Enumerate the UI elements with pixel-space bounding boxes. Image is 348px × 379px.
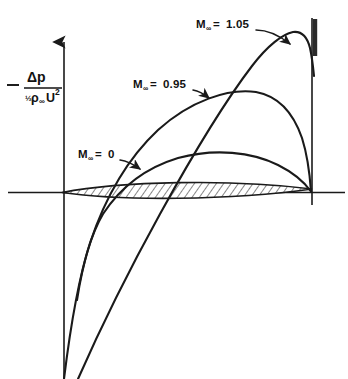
annotation-mach-0-equals: = bbox=[95, 148, 102, 160]
y-axis-label-u-exponent: 2 bbox=[55, 87, 60, 97]
annotation-mach-095: M ∞ = 0.95 bbox=[133, 78, 209, 98]
curve-mach-105-path bbox=[78, 32, 314, 379]
curve-mach-0 bbox=[77, 152, 311, 300]
annotation-mach-105-value: 1.05 bbox=[226, 18, 250, 30]
annotation-mach-095-equals: = bbox=[150, 78, 157, 90]
annotation-mach-105-symbol: M bbox=[196, 18, 206, 30]
airfoil-outline bbox=[62, 183, 312, 199]
annotation-mach-0-symbol: M bbox=[78, 148, 88, 160]
annotation-mach-095-leader bbox=[193, 90, 209, 98]
y-axis-label: Δp ½ ρ ∞ U 2 bbox=[7, 69, 62, 106]
annotation-mach-095-subscript: ∞ bbox=[143, 84, 148, 93]
annotation-mach-105-equals: = bbox=[213, 18, 220, 30]
y-axis-label-numerator: Δp bbox=[27, 69, 46, 85]
y-axis-label-rho-subscript: ∞ bbox=[39, 97, 45, 106]
y-axis-label-rho: ρ bbox=[31, 91, 39, 105]
pressure-distribution-figure: M ∞ = 1.05 M ∞ = 0.95 M ∞ = 0 Δp ½ ρ ∞ U… bbox=[0, 0, 348, 379]
curve-mach-0-path bbox=[77, 152, 311, 300]
annotation-mach-0: M ∞ = 0 bbox=[78, 148, 140, 169]
annotation-mach-0-value: 0 bbox=[108, 148, 115, 160]
annotation-mach-105-subscript: ∞ bbox=[206, 24, 211, 33]
airfoil-section bbox=[62, 183, 312, 199]
annotation-mach-105-leader bbox=[256, 30, 290, 44]
annotation-mach-095-symbol: M bbox=[133, 78, 143, 90]
annotation-mach-0-subscript: ∞ bbox=[88, 154, 93, 163]
curve-mach-095 bbox=[64, 91, 311, 379]
y-axis-label-u: U bbox=[46, 91, 55, 105]
curve-mach-095-path bbox=[64, 91, 311, 379]
annotation-mach-095-value: 0.95 bbox=[163, 78, 187, 90]
